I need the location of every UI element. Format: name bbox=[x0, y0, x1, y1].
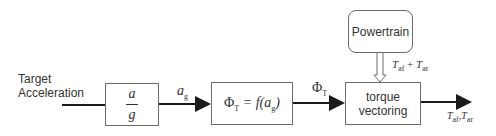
phi-close: ) bbox=[275, 95, 280, 110]
ag-sub: g bbox=[184, 92, 188, 101]
signal-phi-label: ΦT bbox=[312, 80, 327, 98]
torque-vectoring-line1: torque bbox=[366, 90, 400, 104]
normalize-block: a g bbox=[105, 83, 159, 126]
powertrain-hollow-arrow bbox=[374, 52, 386, 82]
out-t2-sub: ar bbox=[467, 115, 473, 124]
phi-function-expression: ΦT = f(ag) bbox=[224, 95, 280, 113]
fraction-a-over-g: a g bbox=[126, 86, 138, 123]
phi-function-block: ΦT = f(ag) bbox=[211, 82, 293, 125]
t2-sub: ar bbox=[422, 64, 428, 73]
phi-eq: = f(a bbox=[243, 95, 272, 110]
powertrain-torque-label: Taf + Tar bbox=[392, 58, 428, 73]
torque-vectoring-block: torque vectoring bbox=[345, 82, 421, 125]
input-label-target-acceleration: Target Acceleration bbox=[18, 72, 82, 100]
signal-ag-label: ag bbox=[177, 83, 188, 101]
t1-sub: af bbox=[398, 64, 404, 73]
phi-sub: T bbox=[234, 103, 239, 112]
powertrain-label: Powertrain bbox=[352, 25, 409, 39]
output-torque-label: Taf,Tar bbox=[447, 110, 473, 124]
numerator: a bbox=[129, 86, 136, 102]
phi-t-base: Φ bbox=[312, 80, 322, 95]
torque-vectoring-line2: vectoring bbox=[359, 104, 408, 118]
plus-op: + bbox=[407, 58, 413, 70]
phi-symbol: Φ bbox=[224, 95, 234, 110]
fraction-bar bbox=[126, 104, 138, 105]
phi-t-sub: T bbox=[322, 89, 327, 98]
ag-base: a bbox=[177, 83, 184, 98]
input-label-text: Target Acceleration bbox=[18, 72, 82, 100]
powertrain-block: Powertrain bbox=[348, 10, 413, 53]
denominator: g bbox=[129, 107, 136, 123]
